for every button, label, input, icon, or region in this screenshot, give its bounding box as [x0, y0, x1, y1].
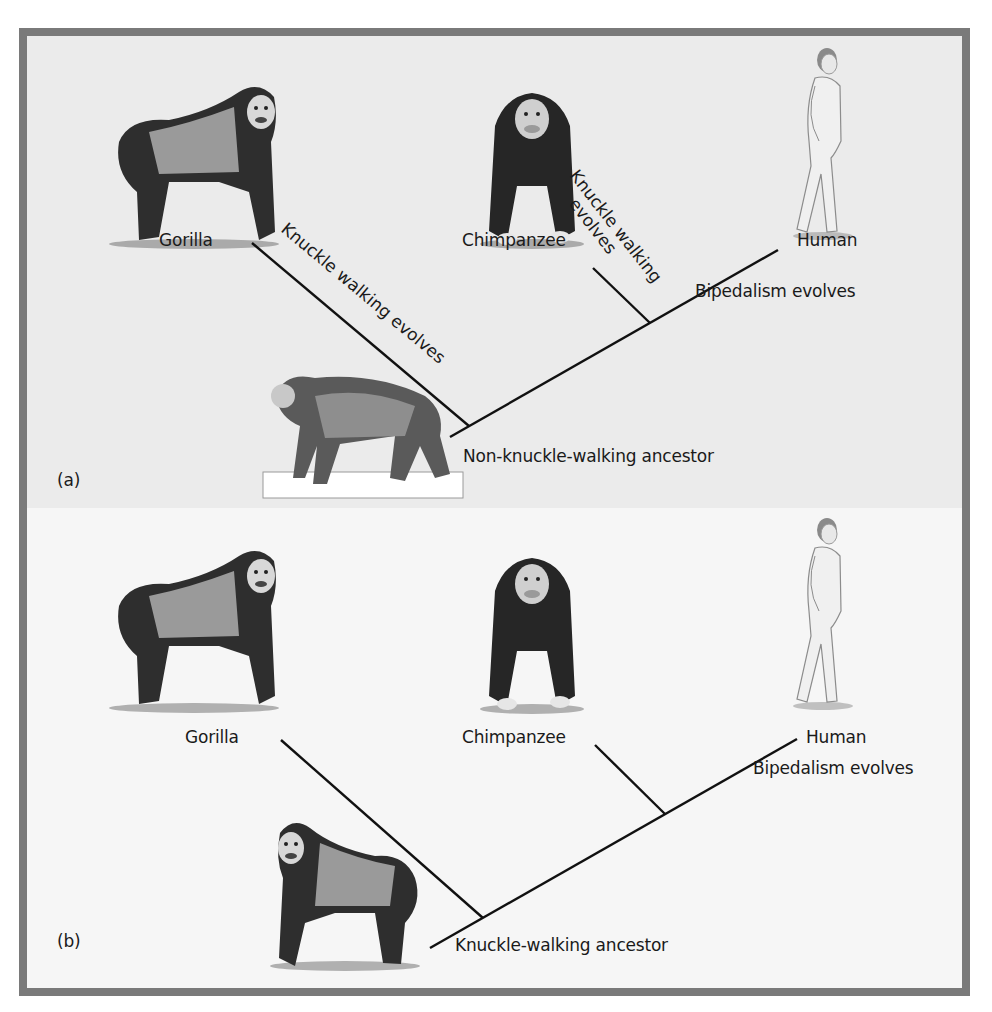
human-label: Human [797, 232, 857, 249]
panel-tag-a: (a) [57, 472, 80, 489]
gorilla-label: Gorilla [159, 232, 213, 249]
gorilla-branch-line [252, 243, 469, 426]
bipedalism-evolves-label: Bipedalism evolves [753, 760, 914, 777]
human-label: Human [806, 729, 866, 746]
chimpanzee-branch-line [595, 745, 665, 814]
gorilla-label: Gorilla [185, 729, 239, 746]
figure-frame: Gorilla Chimpanzee Human Bipedalism evol… [19, 28, 970, 996]
gorilla-branch-line [281, 740, 483, 918]
trunk-line-b [430, 739, 797, 948]
panel-a: Gorilla Chimpanzee Human Bipedalism evol… [27, 36, 962, 508]
phylogeny-tree-b [27, 508, 962, 988]
panel-tag-b: (b) [57, 933, 80, 950]
trunk-line-a [450, 250, 778, 437]
chimpanzee-label: Chimpanzee [462, 729, 566, 746]
ancestor-label: Non-knuckle-walking ancestor [463, 448, 714, 465]
bipedalism-evolves-label: Bipedalism evolves [695, 283, 856, 300]
panel-b: Gorilla Chimpanzee Human Bipedalism evol… [27, 508, 962, 988]
phylogeny-tree-a [27, 36, 962, 508]
ancestor-label: Knuckle-walking ancestor [455, 937, 668, 954]
chimpanzee-label: Chimpanzee [462, 232, 566, 249]
